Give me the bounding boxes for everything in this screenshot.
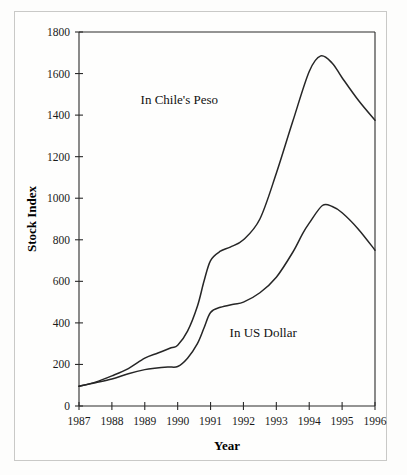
y-tick-label: 1200 [47, 151, 70, 163]
y-tick-label: 1800 [47, 26, 70, 38]
x-tick-label: 1992 [232, 415, 255, 427]
x-tick-label: 1993 [265, 415, 288, 427]
plot-frame-group [79, 32, 375, 406]
x-tick-label: 1991 [199, 415, 222, 427]
series-annotations-group: In Chile's PesoIn US Dollar [141, 92, 298, 341]
x-axis-title: Year [214, 438, 240, 453]
series-lines-group [79, 56, 375, 387]
series-line-in-us-dollar [79, 204, 375, 386]
x-axis-group: 1987198819891990199119921993199419951996 [68, 402, 387, 427]
y-tick-label: 800 [53, 234, 71, 246]
y-tick-label: 400 [53, 317, 71, 329]
x-tick-label: 1989 [133, 415, 156, 427]
y-axis-ticks: 020040060080010001200140016001800 [47, 26, 83, 412]
x-tick-label: 1987 [68, 415, 91, 427]
series-label-in-chile-s-peso: In Chile's Peso [141, 92, 218, 107]
x-tick-label: 1996 [364, 415, 387, 427]
x-tick-label: 1994 [298, 415, 321, 427]
y-tick-label: 1400 [47, 109, 70, 121]
x-tick-label: 1995 [331, 415, 354, 427]
y-tick-label: 600 [53, 275, 71, 287]
y-tick-label: 1000 [47, 192, 70, 204]
y-axis-group: 020040060080010001200140016001800 [47, 26, 83, 412]
y-axis-title: Stock Index [24, 185, 39, 252]
y-tick-label: 1600 [47, 68, 70, 80]
x-tick-label: 1988 [100, 415, 123, 427]
series-label-in-us-dollar: In US Dollar [230, 325, 298, 340]
x-tick-label: 1990 [166, 415, 189, 427]
figure-root: 020040060080010001200140016001800 198719… [0, 0, 407, 475]
stock-index-line-chart: 020040060080010001200140016001800 198719… [0, 0, 407, 475]
y-tick-label: 200 [53, 358, 71, 370]
series-line-in-chile-s-peso [79, 56, 375, 387]
y-tick-label: 0 [64, 400, 70, 412]
